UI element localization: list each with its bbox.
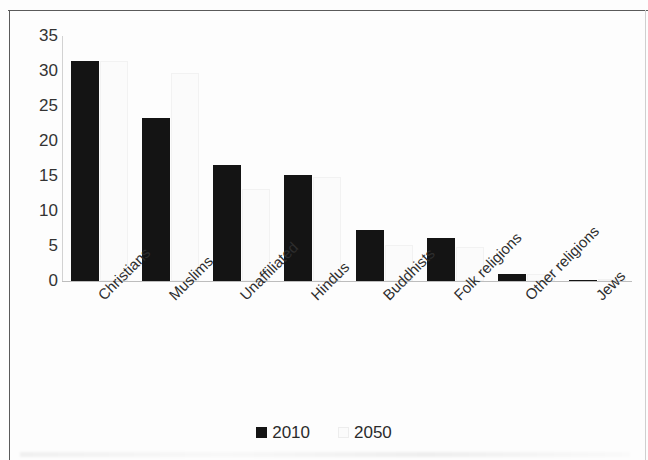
bar-group — [213, 36, 270, 281]
bar-2010[interactable] — [213, 165, 241, 281]
y-axis-tick-label: 10 — [14, 202, 58, 219]
y-axis-tick-label: 25 — [14, 97, 58, 114]
y-axis-tick-label: 30 — [14, 62, 58, 79]
bar-group — [71, 36, 128, 281]
bar-group — [427, 36, 484, 281]
y-axis-tick-label: 15 — [14, 167, 58, 184]
light-square-swatch — [338, 427, 349, 438]
dark-square-swatch — [256, 427, 267, 438]
bars-area — [63, 36, 632, 281]
bar-2010[interactable] — [498, 274, 526, 281]
legend-label-2010: 2010 — [272, 424, 310, 441]
bar-2010[interactable] — [356, 230, 384, 281]
y-axis-tick-label: 20 — [14, 132, 58, 149]
bar-chart-plot: 05101520253035 ChristiansMuslimsUnaffili… — [0, 0, 648, 460]
bar-2050[interactable] — [100, 61, 128, 281]
chart-legend: 2010 2050 — [0, 424, 648, 441]
bar-group — [356, 36, 413, 281]
scan-artifact — [20, 452, 630, 457]
bar-2010[interactable] — [569, 280, 597, 281]
bar-2010[interactable] — [71, 61, 99, 281]
y-axis-tick-label: 35 — [14, 27, 58, 44]
bar-2010[interactable] — [284, 175, 312, 281]
legend-item-2010[interactable]: 2010 — [256, 424, 310, 441]
chart-image-frame: 05101520253035 ChristiansMuslimsUnaffili… — [0, 0, 648, 460]
legend-item-2050[interactable]: 2050 — [338, 424, 392, 441]
y-axis-tick-label: 5 — [14, 237, 58, 254]
legend-label-2050: 2050 — [354, 424, 392, 441]
bar-group — [142, 36, 199, 281]
bar-2050[interactable] — [171, 73, 199, 281]
y-axis-tick-label: 0 — [14, 272, 58, 289]
